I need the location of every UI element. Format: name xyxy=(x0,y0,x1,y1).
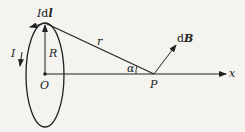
idl-arrow xyxy=(30,24,42,27)
biot-savart-ring-diagram: Idl I R r O P α dB x xyxy=(0,0,245,132)
label-point: P xyxy=(149,78,158,91)
label-distance: r xyxy=(97,35,103,48)
label-radius: R xyxy=(48,47,57,60)
label-center: O xyxy=(40,79,49,92)
angle-arc xyxy=(136,66,137,74)
label-angle: α xyxy=(127,62,135,75)
db-vector xyxy=(154,45,176,74)
label-db: dB xyxy=(177,32,193,45)
label-current: I xyxy=(10,47,16,60)
label-idl: Idl xyxy=(36,7,53,20)
label-axis: x xyxy=(229,67,236,80)
current-arrow xyxy=(20,52,22,66)
